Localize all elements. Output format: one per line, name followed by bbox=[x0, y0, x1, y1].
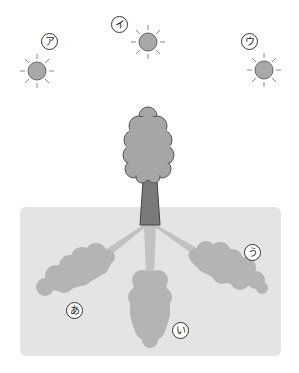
tree-crown-fill bbox=[126, 116, 170, 180]
sun-label-u: ウ bbox=[241, 33, 258, 50]
shadow-label-u: う bbox=[244, 244, 261, 261]
sun-u bbox=[247, 53, 281, 87]
diagram-canvas bbox=[0, 0, 299, 373]
sun-label-i: イ bbox=[111, 16, 128, 33]
tree-trunk bbox=[140, 180, 160, 225]
sun-label-a: ア bbox=[41, 33, 58, 50]
shadow-label-a: あ bbox=[66, 302, 83, 319]
shadow-label-i: い bbox=[172, 322, 189, 339]
sun-i bbox=[131, 25, 165, 59]
sun-a bbox=[20, 54, 54, 88]
